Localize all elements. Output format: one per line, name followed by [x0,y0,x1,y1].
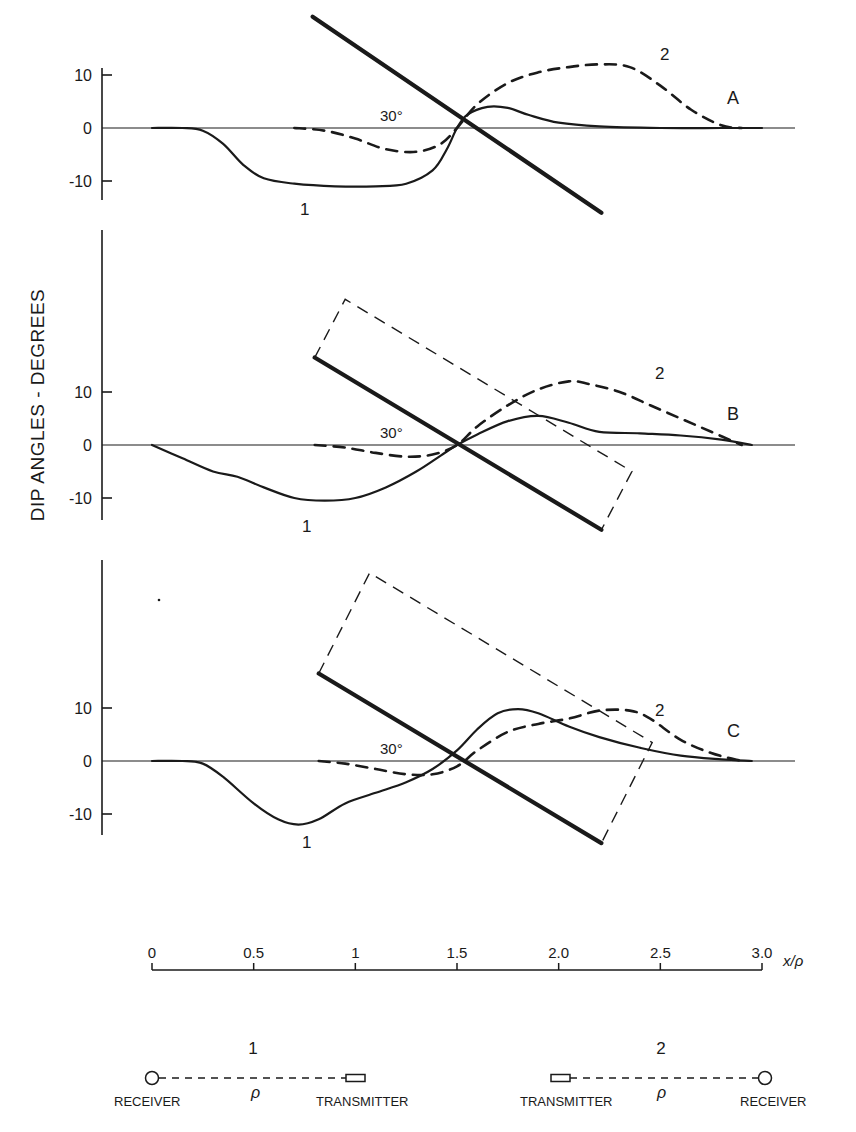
panel-c: 100-101230°C [69,560,795,852]
y-tick-label: 10 [74,700,92,717]
x-axis: 00.511.52.02.53.0 [148,944,773,970]
y-tick-label: -10 [69,490,92,507]
x-tick-label: 1 [351,944,359,961]
x-tick-label: 2.0 [548,944,569,961]
x-axis-label: x/ρ [782,952,804,969]
legend-2-number: 2 [656,1039,665,1058]
legend-2-spacing: ρ [656,1084,666,1101]
dip-angle-figure: 100-101230°A100-101230°B100-101230°C DIP… [0,0,856,1132]
legend-1-right-label: TRANSMITTER [316,1094,408,1109]
curve-1-solid [152,106,762,186]
transmitter-icon [346,1075,365,1082]
dip-angle-annotation: 30° [380,424,403,441]
y-tick-label: -10 [69,173,92,190]
y-tick-label: 10 [74,384,92,401]
legend-2-right-label: RECEIVER [740,1094,806,1109]
curve-1-solid [152,416,752,501]
curve-2-label: 2 [655,701,664,720]
panel-label-a: A [727,88,739,108]
x-tick-label: 2.5 [650,944,671,961]
dip-angle-annotation: 30° [380,740,403,757]
dip-angle-annotation: 30° [380,107,403,124]
panel-b: 100-101230°B [69,230,795,536]
x-tick-label: 1.5 [447,944,468,961]
legend-config-2: 2 ρ TRANSMITTER RECEIVER [520,1039,806,1109]
y-tick-label: 0 [83,753,92,770]
legend-1-left-label: RECEIVER [114,1094,180,1109]
conductor-sheet [319,674,602,844]
legend-config-1: 1 ρ RECEIVER TRANSMITTER [114,1039,408,1109]
legend-1-spacing: ρ [250,1084,260,1101]
transmitter-icon [551,1075,570,1082]
x-tick-label: 0 [148,944,156,961]
x-tick-label: 3.0 [752,944,773,961]
receiver-icon [759,1072,772,1085]
panel-label-b: B [727,404,739,424]
y-tick-label: 0 [83,120,92,137]
panel-label-c: C [727,721,740,741]
legend-2-left-label: TRANSMITTER [520,1094,612,1109]
y-tick-label: 10 [74,67,92,84]
y-tick-label: 0 [83,437,92,454]
y-axis-label: DIP ANGLES - DEGREES [27,289,48,521]
curve-2-label: 2 [655,364,664,383]
x-tick-label: 0.5 [243,944,264,961]
curve-2-label: 2 [660,45,669,64]
panel-a: 100-101230°A [69,17,795,219]
conductor-outline-dashed [319,573,653,843]
conductor-sheet [313,17,602,213]
receiver-icon [146,1072,159,1085]
legend-1-number: 1 [248,1039,257,1058]
curve-1-label: 1 [300,200,309,219]
curve-1-label: 1 [302,517,311,536]
print-speck [158,599,161,602]
curve-1-label: 1 [302,833,311,852]
curve-2-dashed [294,64,741,152]
y-tick-label: -10 [69,806,92,823]
